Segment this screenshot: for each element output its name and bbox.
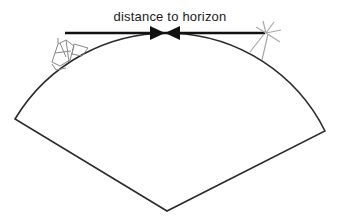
light-burst-icon (250, 21, 281, 60)
distance-label: distance to horizon (90, 9, 250, 24)
earth-curvature-sector (15, 33, 325, 211)
diagram-canvas (0, 0, 345, 222)
arrow-left-icon (165, 26, 180, 40)
arrow-right-icon (150, 26, 165, 40)
